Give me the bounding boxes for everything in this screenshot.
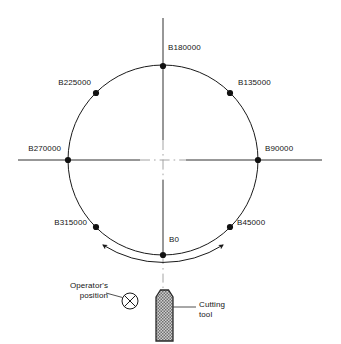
label-b0: B0 — [169, 235, 179, 245]
operator-position-label-line2: position — [70, 291, 108, 301]
operator-position-label-line1: Operator's — [70, 281, 108, 291]
b-axis-index-diagram: B180000 B135000 B90000 B45000 B0 B315000… — [0, 0, 341, 344]
cutting-tool-label: Cutting tool — [199, 300, 225, 321]
label-b315000: B315000 — [54, 218, 87, 228]
label-b45000: B45000 — [237, 218, 265, 228]
operator-leader-line — [106, 293, 123, 298]
label-b180000: B180000 — [168, 43, 201, 53]
label-b225000: B225000 — [58, 78, 91, 88]
dot-b315000 — [93, 224, 99, 230]
dot-b0 — [160, 252, 166, 258]
dot-b90000 — [255, 157, 261, 163]
operator-position-symbol — [122, 293, 138, 309]
dot-b225000 — [93, 90, 99, 96]
dot-b135000 — [227, 90, 233, 96]
cutting-tool-label-line2: tool — [199, 310, 225, 320]
dot-b45000 — [227, 224, 233, 230]
label-b270000: B270000 — [28, 144, 61, 154]
dot-b270000 — [65, 157, 71, 163]
label-b135000: B135000 — [238, 78, 271, 88]
cutting-tool-shape — [156, 290, 173, 341]
label-b90000: B90000 — [265, 144, 293, 154]
operator-position-label: Operator's position — [70, 281, 108, 302]
dot-b180000 — [160, 63, 166, 69]
cutting-tool-label-line1: Cutting — [199, 300, 225, 310]
